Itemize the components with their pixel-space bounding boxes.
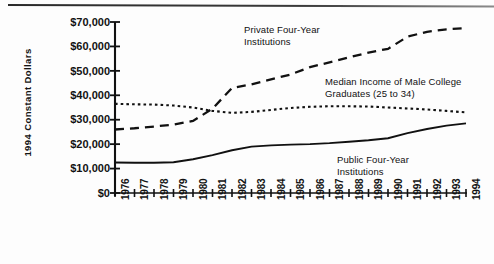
- x-tick-label: 1984: [276, 179, 287, 200]
- x-tick-label: 1992: [432, 179, 443, 200]
- x-tick-label: 1985: [295, 179, 306, 200]
- axes: [110, 22, 467, 197]
- x-tick-label: 1991: [412, 179, 423, 200]
- x-tick-label: 1976: [120, 179, 131, 200]
- x-tick-label: 1994: [471, 179, 482, 200]
- x-tick-label: 1982: [237, 179, 248, 200]
- x-tick-label: 1983: [256, 179, 267, 200]
- x-tick-label: 1988: [354, 179, 365, 200]
- x-tick-label: 1979: [178, 179, 189, 200]
- x-tick-label: 1993: [451, 179, 462, 200]
- chart-container: 1994 Constant Dollars $70,000 $60,000 $5…: [0, 0, 494, 264]
- annotation-public-four-year: Public Four-Year Institutions: [337, 154, 409, 178]
- x-tick-label: 1980: [198, 179, 209, 200]
- x-tick-label: 1981: [217, 179, 228, 200]
- series-median-income-male-college-graduates: [115, 104, 466, 113]
- x-tick-label: 1987: [334, 179, 345, 200]
- x-tick-label: 1978: [159, 179, 170, 200]
- x-tick-label: 1986: [315, 179, 326, 200]
- annotation-median-income: Median Income of Male College Graduates …: [325, 76, 462, 100]
- series-public-four-year: [115, 123, 466, 162]
- annotation-private-four-year: Private Four-Year Institutions: [244, 24, 320, 48]
- x-tick-label: 1977: [139, 179, 150, 200]
- x-tick-label: 1989: [373, 179, 384, 200]
- x-tick-label: 1990: [393, 179, 404, 200]
